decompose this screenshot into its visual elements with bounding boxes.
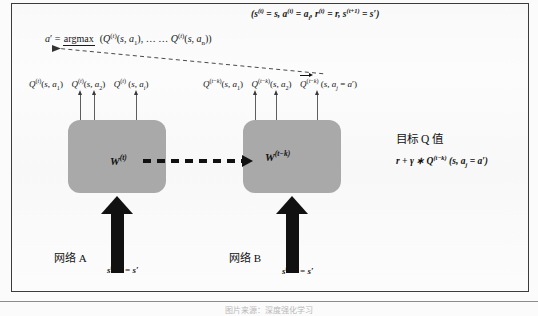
- q-output-a-1: Q(t)(s, a1): [29, 79, 63, 89]
- transition-tuple-label: (s(t) = s, a(t) = ai, r(t) = r, s(t+1) =…: [251, 9, 379, 20]
- output-arrow-b-1: [255, 94, 256, 120]
- caption-divider: [0, 301, 538, 302]
- target-q-formula: r + γ ∗ Q(t−k) (s, aj = a′): [396, 156, 488, 167]
- output-arrow-a-1: [80, 94, 81, 120]
- output-arrow-b-3: [317, 94, 318, 120]
- q-output-b-selected: Q(t−k) (s, aj = a′): [300, 79, 357, 89]
- weight-copy-arrow: [143, 159, 256, 163]
- q-outputs-network-b: Q(t−k)(s, a1) Q(t−k)(s, a2) Q(t−k) (s, a…: [203, 79, 357, 89]
- network-b-box: [243, 120, 341, 193]
- target-q-title: 目标 Q 值: [396, 130, 443, 146]
- network-a-weights-label: W(t): [110, 155, 127, 167]
- output-arrow-b-2: [276, 94, 277, 120]
- network-b-weights-label: W(t−k): [265, 151, 290, 163]
- q-output-a-i: Q(t) (s, ai): [114, 79, 149, 89]
- state-input-arrow-b: [270, 196, 314, 273]
- q-outputs-network-a: Q(t)(s, a1) Q(t)(s, a2) Q(t) (s, ai): [29, 79, 149, 89]
- state-input-label-b: s(t+1) = s′: [282, 266, 314, 276]
- network-b-name: 网络 B: [229, 249, 261, 265]
- q-output-a-2: Q(t)(s, a2): [71, 79, 105, 89]
- figure-caption: 图片来源：深度强化学习: [0, 304, 538, 315]
- output-arrow-a-3: [136, 94, 137, 120]
- state-input-arrow-a: [95, 196, 139, 273]
- state-input-label-a: s(t+1) = s′: [107, 265, 139, 275]
- network-a-name: 网络 A: [54, 249, 87, 265]
- q-output-b-2: Q(t−k)(s, a2): [252, 79, 292, 89]
- q-output-b-1: Q(t−k)(s, a1): [203, 79, 243, 89]
- output-arrow-a-2: [94, 94, 95, 120]
- diagram-canvas: (s(t) = s, a(t) = ai, r(t) = r, s(t+1) =…: [0, 0, 538, 316]
- argmax-to-target-link: [52, 44, 328, 78]
